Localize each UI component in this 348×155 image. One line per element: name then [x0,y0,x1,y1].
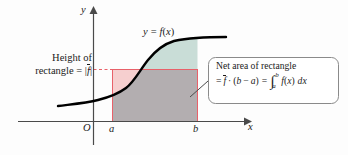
callout-formula: =f·(b−a)=∫baf(x)dx [216,75,336,87]
callout-content: Net area of rectangle =f·(b−a)=∫baf(x)dx [216,61,336,86]
curve-label-eq: = [148,26,160,37]
formula-minus: − [241,75,250,86]
formula-f-bar: f [223,75,226,87]
y-axis-arrowhead [90,6,98,14]
curve-label-y: y [143,26,148,37]
curve-label-close: ) [171,26,175,37]
height-of-rectangle-label: Height of rectangle = |f| [14,52,92,77]
y-axis-label: y [81,4,86,16]
curve-label: y=f(x) [143,26,174,38]
formula-eq2: = [259,75,270,86]
formula-eq1: = [216,75,221,86]
height-label-line2: rectangle = |f| [14,64,92,77]
integral-upper-limit: b [275,72,279,79]
tick-label-b: b [193,123,198,135]
tick-label-a: a [109,123,114,135]
f-bar-symbol: f [87,64,90,77]
area-under-curve-region [58,37,226,130]
differential-dx: dx [295,75,307,86]
integral-symbol: ∫ba [270,76,281,87]
height-label-prefix: rectangle = [35,65,85,76]
origin-label: O [83,122,91,134]
height-label-line1: Height of [14,52,92,64]
x-axis-label: x [248,121,253,133]
average-value-figure: Height of rectangle = |f| y x O a b y=f(… [0,0,348,155]
integral-lower-limit: a [272,83,276,90]
abs-bar-close: | [90,65,92,76]
